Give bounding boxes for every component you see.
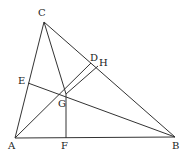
geometry-diagram: C D H E G A F B [0, 0, 191, 156]
label-A: A [8, 141, 15, 151]
label-F: F [61, 141, 68, 151]
triangle-figure [0, 0, 191, 156]
segment-EB [28, 83, 175, 137]
segment-AB [15, 137, 175, 138]
segment-CB [44, 22, 175, 137]
segment-CG [44, 22, 66, 94]
label-B: B [172, 141, 179, 151]
label-G: G [58, 99, 66, 109]
label-E: E [18, 76, 25, 86]
segment-GH [66, 66, 98, 94]
label-C: C [38, 8, 46, 18]
label-D: D [90, 53, 98, 63]
segment-AD [15, 63, 91, 138]
label-H: H [99, 58, 108, 68]
